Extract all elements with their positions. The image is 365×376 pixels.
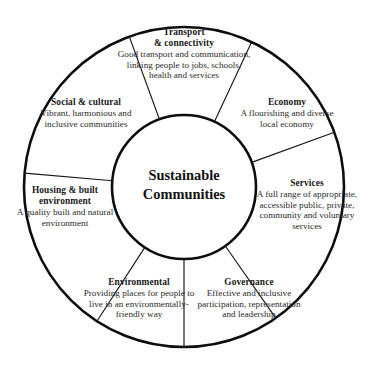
hub-label: Sustainable Communities: [114, 166, 254, 203]
segment-title-services: Services: [252, 178, 362, 189]
segment-description-environmental: Providing places for people to live in a…: [80, 288, 198, 319]
segment-title-economy: Economy: [232, 97, 342, 108]
segment-title-governance: Governance: [190, 277, 308, 288]
segment-title-environmental: Environmental: [80, 277, 198, 288]
segment-description-social: Vibrant, harmonious and inclusive commun…: [30, 108, 142, 129]
hub-label-line1: Sustainable: [114, 166, 254, 185]
segment-description-economy: A flourishing and diverse local economy: [232, 108, 342, 129]
segment-title-housing-line2: environment: [10, 196, 120, 207]
segment-description-transport: Good transport and communication, linkin…: [116, 49, 252, 80]
segment-description-housing: A quality built and natural environment: [10, 207, 120, 228]
segment-housing-built-environment[interactable]: Housing & built environment A quality bu…: [10, 185, 120, 228]
segment-title-transport-line2: & connectivity: [116, 38, 252, 49]
segment-title-housing: Housing & built: [10, 185, 120, 196]
segment-economy[interactable]: Economy A flourishing and diverse local …: [232, 97, 342, 129]
hub-label-line2: Communities: [114, 185, 254, 204]
segment-description-governance: Effective and inclusive participation, r…: [190, 288, 308, 319]
segment-services[interactable]: Services A full range of appropriate, ac…: [252, 178, 362, 231]
segment-title-transport: Transport: [116, 27, 252, 38]
segment-environmental[interactable]: Environmental Providing places for peopl…: [80, 277, 198, 320]
segment-transport-connectivity[interactable]: Transport & connectivity Good transport …: [116, 27, 252, 81]
segment-description-services: A full range of appropriate, accessible …: [252, 189, 362, 231]
segment-title-social: Social & cultural: [30, 97, 142, 108]
sustainable-communities-wheel-diagram: Transport & connectivity Good transport …: [0, 0, 365, 376]
segment-governance[interactable]: Governance Effective and inclusive parti…: [190, 277, 308, 320]
segment-social-cultural[interactable]: Social & cultural Vibrant, harmonious an…: [30, 97, 142, 129]
